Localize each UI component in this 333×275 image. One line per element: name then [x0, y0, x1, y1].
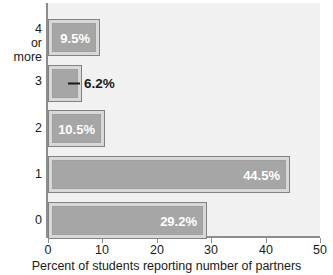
bar-4-or-more[interactable]: 9.5%	[48, 19, 100, 56]
bar-value-3: 6.2%	[84, 76, 115, 91]
x-tick-label-30: 30	[191, 243, 231, 257]
bar-2[interactable]: 10.5%	[48, 110, 105, 147]
bar-1[interactable]: 44.5%	[48, 156, 290, 193]
bar-value-3-group: 6.2%	[68, 76, 115, 91]
y-axis-label-2: 2	[0, 121, 42, 135]
bar-chart: 4 or more 9.5% 3 6.2% 2 10.5% 1 44.5% 0	[0, 0, 333, 275]
x-tick-label-40: 40	[246, 243, 286, 257]
y-axis-label-3: 3	[0, 74, 42, 88]
x-tick-label-10: 10	[82, 243, 122, 257]
bar-value-1: 44.5%	[243, 167, 280, 182]
y-axis-label-line1: 2	[0, 121, 42, 135]
bar-row-0[interactable]: 29.2%	[48, 202, 207, 239]
y-axis-label-line1: 4	[0, 22, 42, 36]
bar-value-0: 29.2%	[160, 213, 197, 228]
y-axis-label-line1: 3	[0, 74, 42, 88]
y-axis-label-4-or-more: 4 or more	[0, 22, 42, 64]
bar-row-4-or-more[interactable]: 9.5%	[48, 19, 100, 56]
y-axis-label-0: 0	[0, 213, 42, 227]
bar-0[interactable]: 29.2%	[48, 202, 207, 239]
leader-line-icon	[68, 82, 80, 84]
bar-row-1[interactable]: 44.5%	[48, 156, 290, 193]
y-axis-label-1: 1	[0, 167, 42, 181]
y-axis-label-line1: 0	[0, 213, 42, 227]
x-tick-label-20: 20	[137, 243, 177, 257]
bar-row-2[interactable]: 10.5%	[48, 110, 105, 147]
y-axis-label-line2: or more	[0, 36, 42, 64]
x-tick-label-50: 50	[300, 243, 333, 257]
x-tick-label-0: 0	[28, 243, 68, 257]
y-axis-label-line1: 1	[0, 167, 42, 181]
x-axis-title: Percent of students reporting number of …	[0, 259, 333, 273]
bar-value-2: 10.5%	[58, 121, 95, 136]
bar-value-4-or-more: 9.5%	[60, 30, 90, 45]
